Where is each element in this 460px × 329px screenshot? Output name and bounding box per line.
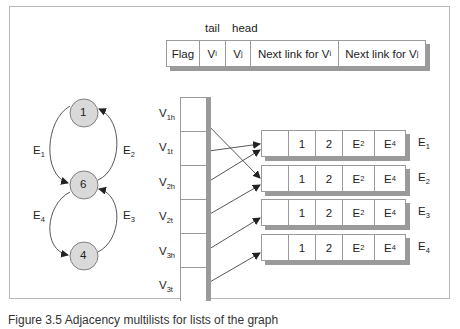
edge-record-e2: 1 2 E2 E4 xyxy=(261,165,406,192)
flag-cell xyxy=(262,166,289,191)
flag-cell xyxy=(262,131,289,156)
vertex-column xyxy=(180,97,207,301)
next-vi-cell: E2 xyxy=(343,131,375,156)
edge-e3-curve xyxy=(98,189,117,252)
edge-record-e4: 1 2 E2 E4 xyxy=(261,234,406,261)
vi-cell: 1 xyxy=(289,235,316,260)
flag-cell xyxy=(262,235,289,260)
edge-record-label-e2: E2 xyxy=(418,171,430,186)
next-vj-cell: E4 xyxy=(375,166,405,191)
edge-record-e3: 1 2 E2 E4 xyxy=(261,199,406,226)
vertex-cell xyxy=(181,132,206,166)
vertex-label-v2t: V2t xyxy=(159,210,173,225)
vj-cell: 2 xyxy=(316,200,343,225)
vertex-label-v2h: V2h xyxy=(159,176,175,191)
vertex-cell xyxy=(181,200,206,234)
edge-record-e1: 1 2 E2 E4 xyxy=(261,130,406,157)
figure-caption: Figure 3.5 Adjacency multilists for list… xyxy=(8,313,278,327)
vi-cell: 1 xyxy=(289,166,316,191)
vertex-cell xyxy=(181,166,206,200)
edge-label-e2: E2 xyxy=(123,144,135,159)
node-6-label: 6 xyxy=(80,178,86,190)
edge-label-e3: E3 xyxy=(123,209,135,224)
vj-cell: 2 xyxy=(316,131,343,156)
vertex-label-v3h: V3h xyxy=(159,245,175,260)
next-vi-cell: E2 xyxy=(343,200,375,225)
next-vi-cell: E2 xyxy=(343,235,375,260)
vertex-cell xyxy=(181,98,206,132)
edge-label-e1: E1 xyxy=(33,144,45,159)
flag-cell xyxy=(262,200,289,225)
vertex-label-v1h: V1h xyxy=(159,107,175,122)
vertex-label-v1t: V1t xyxy=(159,141,173,156)
next-vi-cell: E2 xyxy=(343,166,375,191)
node-1-label: 1 xyxy=(80,106,86,118)
vi-cell: 1 xyxy=(289,200,316,225)
edge-e4-curve xyxy=(50,192,70,255)
vertex-cell xyxy=(181,234,206,268)
edge-e2-curve xyxy=(98,109,117,180)
next-vj-cell: E4 xyxy=(375,235,405,260)
edge-record-label-e3: E3 xyxy=(418,205,430,220)
edge-record-label-e1: E1 xyxy=(418,136,430,151)
node-4-label: 4 xyxy=(80,249,86,261)
edge-label-e4: E4 xyxy=(33,209,45,224)
next-vj-cell: E4 xyxy=(375,200,405,225)
vj-cell: 2 xyxy=(316,166,343,191)
vertex-label-v3t: V3t xyxy=(159,279,173,294)
edge-e1-curve xyxy=(50,106,70,183)
edge-record-label-e4: E4 xyxy=(418,240,430,255)
next-vj-cell: E4 xyxy=(375,131,405,156)
vertex-cell xyxy=(181,268,206,302)
vj-cell: 2 xyxy=(316,235,343,260)
vi-cell: 1 xyxy=(289,131,316,156)
